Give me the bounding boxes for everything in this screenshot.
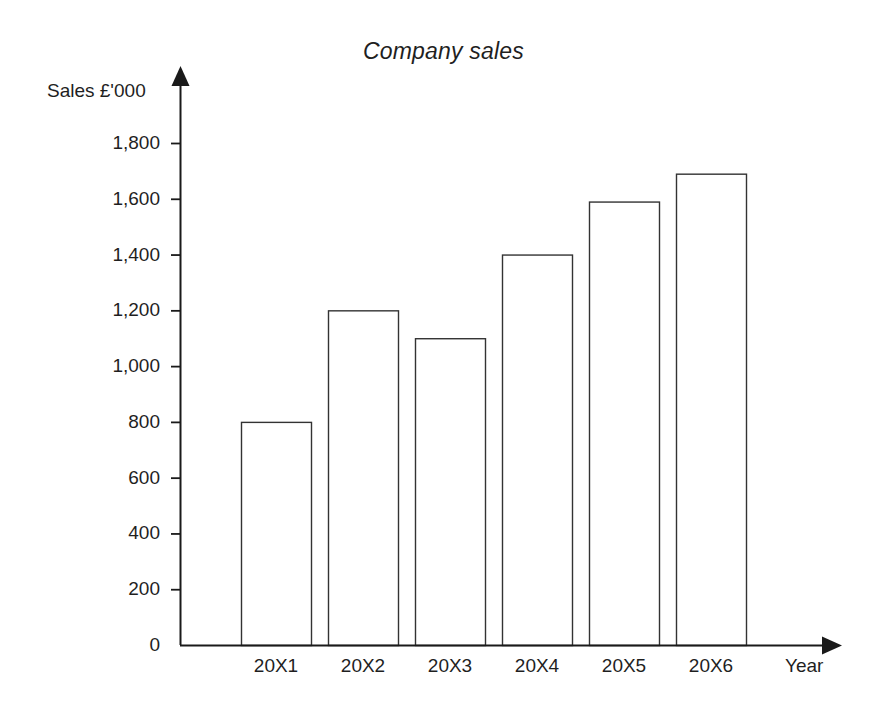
y-tick-label: 600	[40, 467, 160, 489]
bar-20X3	[416, 339, 486, 646]
y-axis-arrow-icon	[172, 66, 190, 86]
y-tick-label: 1,400	[40, 244, 160, 266]
x-tick-label-20X6: 20X6	[651, 655, 771, 677]
bar-20X5	[590, 202, 660, 645]
y-tick-label: 200	[40, 578, 160, 600]
chart-canvas: Company sales Sales £'000 Year 020040060…	[0, 0, 887, 714]
y-tick-label: 1,000	[40, 355, 160, 377]
bar-20X1	[242, 422, 312, 645]
y-tick-label: 400	[40, 522, 160, 544]
bar-20X6	[677, 174, 747, 645]
y-tick-label: 0	[40, 634, 160, 656]
x-axis-arrow-icon	[822, 637, 842, 655]
y-tick-label: 800	[40, 411, 160, 433]
bar-20X4	[503, 255, 573, 645]
y-tick-label: 1,800	[40, 132, 160, 154]
y-tick-label: 1,200	[40, 299, 160, 321]
y-tick-label: 1,600	[40, 188, 160, 210]
bar-20X2	[329, 311, 399, 646]
